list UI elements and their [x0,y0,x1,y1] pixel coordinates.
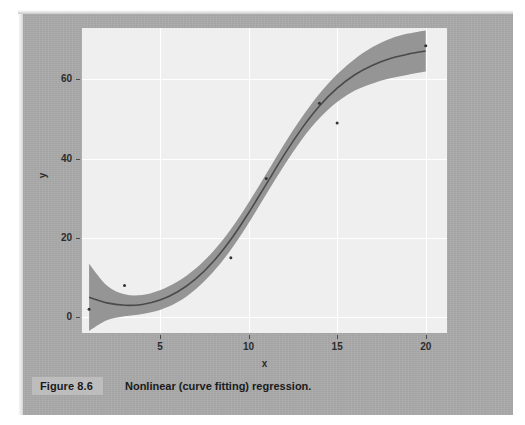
figure-page: 51015200204060 x y Figure 8.6 Nonlinear … [0,0,525,425]
y-tick-mark [76,159,80,160]
x-axis-title: x [82,358,447,369]
figure-number-label: Figure 8.6 [32,377,103,395]
y-axis-title: y [37,173,48,179]
plot-canvas [82,28,447,333]
scanned-page-background: 51015200204060 x y Figure 8.6 Nonlinear … [18,10,513,415]
x-tick-mark [160,335,161,339]
x-tick-label: 15 [322,341,352,352]
figure-caption-text: Nonlinear (curve fitting) regression. [125,380,311,392]
x-tick-label: 20 [411,341,441,352]
plot-panel [82,28,447,333]
y-tick-label: 40 [46,153,72,164]
y-tick-label: 20 [46,232,72,243]
chart-figure: 51015200204060 x y [18,10,513,370]
y-tick-label: 60 [46,73,72,84]
figure-caption-bar: Figure 8.6 Nonlinear (curve fitting) reg… [32,376,502,396]
data-point [229,256,232,259]
data-points [88,44,428,310]
y-tick-label: 0 [46,311,72,322]
data-point [424,44,427,47]
confidence-band [89,30,426,331]
y-tick-mark [76,238,80,239]
x-tick-mark [426,335,427,339]
data-point [318,102,321,105]
fitted-curve-line [89,51,426,305]
y-tick-mark [76,79,80,80]
x-tick-mark [337,335,338,339]
x-tick-mark [249,335,250,339]
y-tick-mark [76,317,80,318]
x-tick-label: 5 [145,341,175,352]
data-point [265,177,268,180]
scan-left-fringe [18,10,23,415]
data-point [123,284,126,287]
scan-top-fringe [18,10,513,14]
data-point [88,308,91,311]
x-tick-label: 10 [234,341,264,352]
data-point [336,122,339,125]
